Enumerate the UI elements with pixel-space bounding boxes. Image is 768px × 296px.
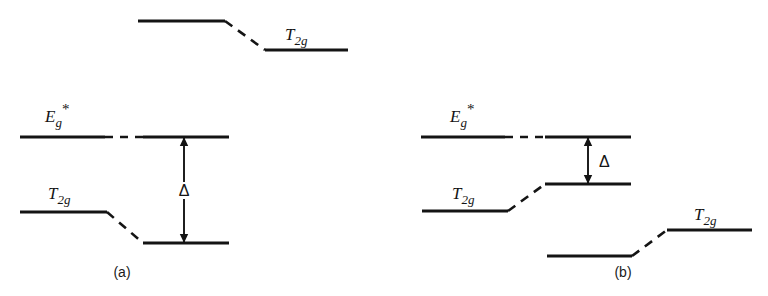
level-a-eg-star: Eg*	[20, 101, 229, 137]
term-subscript: g	[460, 115, 467, 130]
level-connector-dashed	[632, 230, 667, 256]
panel-b: Eg* T2g T2g	[421, 101, 752, 280]
panel-a: T2g Eg* T2g	[20, 21, 348, 280]
level-connector-dashed	[225, 21, 265, 50]
energy-level-diagram: T2g Eg* T2g	[0, 0, 768, 296]
level-a-top-t2g: T2g	[138, 21, 348, 50]
delta-symbol-label: Δ	[599, 153, 610, 170]
term-subscript: 2g	[461, 192, 475, 207]
splitting-arrow-b: Δ	[584, 137, 610, 184]
level-b-t2g: T2g	[422, 184, 631, 211]
term-asterisk: *	[62, 101, 70, 117]
level-label-t2g: T2g	[48, 184, 71, 207]
level-b-eg-star: Eg*	[421, 101, 631, 137]
level-a-t2g: T2g	[20, 184, 229, 243]
level-label-t2g: T2g	[694, 205, 717, 228]
term-symbol: E	[44, 107, 56, 126]
level-label-eg-star: Eg*	[44, 101, 69, 130]
panel-caption-b: (b)	[614, 264, 631, 280]
level-connector-dashed	[107, 212, 143, 243]
term-subscript: 2g	[703, 213, 717, 228]
term-subscript: 2g	[294, 33, 308, 48]
level-b-lower-t2g: T2g	[547, 205, 752, 256]
level-label-eg-star: Eg*	[449, 101, 474, 130]
term-asterisk: *	[467, 101, 475, 117]
panel-caption-a: (a)	[113, 264, 130, 280]
term-subscript: 2g	[57, 192, 71, 207]
term-subscript: g	[55, 115, 62, 130]
figure-canvas: T2g Eg* T2g	[0, 0, 768, 296]
term-symbol: E	[449, 107, 461, 126]
delta-symbol-label: Δ	[179, 182, 190, 199]
splitting-arrow-a: Δ	[175, 137, 193, 243]
level-label-t2g: T2g	[452, 184, 475, 207]
level-label-t2g: T2g	[285, 25, 308, 48]
level-connector-dashed	[508, 184, 545, 211]
